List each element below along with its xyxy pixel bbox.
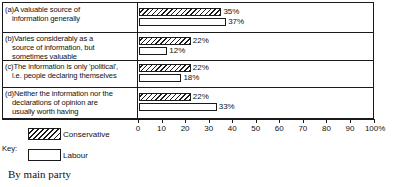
bar-labour (139, 47, 167, 55)
x-axis-tick-label: 100% (365, 124, 385, 133)
category-row: (c)The information is only 'political',i… (3, 60, 375, 87)
chart-root: (a)A valuable source ofinformation gener… (0, 0, 395, 187)
category-label-line: source of information, but (5, 43, 136, 52)
category-label-line: usually worth having (5, 107, 136, 116)
bar-conservative (139, 37, 191, 45)
bar-row: 22% (139, 64, 209, 72)
x-axis-tick-label: 70 (298, 124, 307, 133)
x-axis-tick (279, 119, 280, 123)
x-axis-tick-label: 40 (228, 124, 237, 133)
x-axis-tick (350, 119, 351, 123)
category-label-line: (b)Varies considerably as a (5, 34, 93, 43)
row-separator (3, 60, 373, 61)
bar-group: 22%18% (137, 60, 375, 87)
legend-label: Conservative (63, 130, 110, 139)
category-row: (a)A valuable source ofinformation gener… (3, 3, 375, 32)
row-separator (3, 32, 373, 33)
x-axis-tick-label: 30 (204, 124, 213, 133)
x-axis-tick (256, 119, 257, 123)
category-label: (b)Varies considerably as asource of inf… (5, 32, 136, 62)
x-axis-tick (209, 119, 210, 123)
bar-row: 37% (139, 18, 244, 26)
x-axis-tick-label: 90 (345, 124, 354, 133)
category-label-line: (d)Neither the information nor the (5, 89, 113, 98)
legend-item-conservative: Conservative (28, 128, 110, 140)
bar-conservative (139, 8, 221, 16)
x-axis-tick (232, 119, 233, 123)
legend-label: Labour (63, 151, 88, 160)
bar-row: 22% (139, 93, 209, 101)
legend-swatch-labour (28, 149, 61, 161)
x-axis-tick (374, 119, 375, 123)
bar-value-label: 22% (193, 64, 209, 72)
category-label-line: (c)The information is only 'political', (5, 62, 118, 71)
bar-labour (139, 74, 181, 82)
legend-item-labour: Labour (28, 149, 88, 161)
bar-row: 22% (139, 37, 209, 45)
x-axis-tick (162, 119, 163, 123)
x-axis-tick (326, 119, 327, 123)
bar-row: 18% (139, 74, 199, 82)
bar-row: 12% (139, 47, 185, 55)
category-label-line: declarations of opinion are (5, 98, 136, 107)
bar-group: 22%12% (137, 32, 375, 60)
bar-group: 35%37% (137, 3, 375, 32)
x-axis-line (2, 119, 374, 120)
category-label-line: (a)A valuable source of (5, 5, 80, 14)
bar-value-label: 35% (223, 8, 239, 16)
x-axis-tick (303, 119, 304, 123)
bar-value-label: 37% (228, 18, 244, 26)
bar-conservative (139, 93, 191, 101)
bar-row: 33% (139, 103, 235, 111)
category-label: (c)The information is only 'political',i… (5, 60, 136, 80)
bar-labour (139, 18, 226, 26)
bar-value-label: 22% (193, 37, 209, 45)
legend-title: Key: (2, 144, 17, 153)
category-label: (d)Neither the information nor thedeclar… (5, 87, 136, 117)
category-label-line: i.e. people declaring themselves (5, 71, 136, 80)
bar-row: 35% (139, 8, 239, 16)
x-axis-tick (185, 119, 186, 123)
category-row: (b)Varies considerably as asource of inf… (3, 32, 375, 60)
bar-value-label: 18% (183, 74, 199, 82)
bar-value-label: 12% (169, 47, 185, 55)
x-axis-tick-label: 50 (251, 124, 260, 133)
x-axis-tick-label: 60 (275, 124, 284, 133)
legend: Key: ConservativeLabour (2, 128, 182, 170)
plot-frame: (a)A valuable source ofinformation gener… (2, 2, 374, 119)
chart-caption: By main party (8, 168, 71, 180)
category-label: (a)A valuable source ofinformation gener… (5, 3, 136, 23)
row-separator (3, 87, 373, 88)
bar-value-label: 33% (219, 103, 235, 111)
x-axis-tick (138, 119, 139, 123)
legend-swatch-conservative (28, 128, 61, 140)
category-row: (d)Neither the information nor thedeclar… (3, 87, 375, 118)
x-axis-tick-label: 80 (322, 124, 331, 133)
category-label-line: information generally (5, 14, 136, 23)
bar-labour (139, 103, 217, 111)
bar-conservative (139, 64, 191, 72)
bar-group: 22%33% (137, 87, 375, 118)
bar-value-label: 22% (193, 93, 209, 101)
